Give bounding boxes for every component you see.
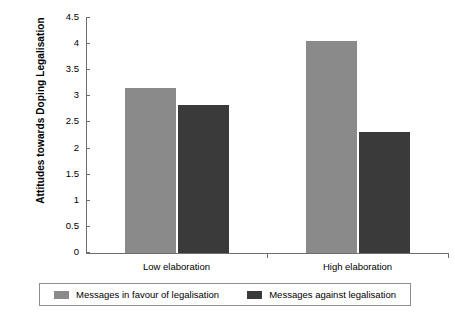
- x-axis-separator-tick: [267, 253, 268, 258]
- x-axis-category-label: High elaboration: [267, 261, 448, 272]
- y-axis-tick-label: 3.5: [66, 63, 79, 75]
- plot-area: 00.511.522.533.544.5: [86, 18, 448, 253]
- y-axis-tick-label: 0.5: [66, 220, 79, 232]
- y-axis-tick-label: 2: [74, 142, 79, 154]
- legend-swatch-icon: [54, 291, 69, 299]
- bar: [125, 88, 176, 253]
- x-axis-end-tick: [448, 253, 449, 258]
- y-axis-tick-mark: [86, 226, 90, 227]
- legend-entry: Messages against legalisation: [247, 289, 396, 300]
- legend-label: Messages against legalisation: [269, 289, 396, 300]
- chart-legend: Messages in favour of legalisation Messa…: [39, 283, 411, 306]
- legend-entry: Messages in favour of legalisation: [54, 289, 219, 300]
- x-axis-category-label: Low elaboration: [86, 261, 267, 272]
- bar: [359, 132, 410, 253]
- y-axis-tick-mark: [86, 148, 90, 149]
- bar-chart-figure: Attitudes towards Doping Legalisation 00…: [0, 0, 455, 319]
- legend-swatch-icon: [247, 291, 262, 299]
- y-axis-tick-label: 1: [74, 194, 79, 206]
- y-axis-tick-mark: [86, 200, 90, 201]
- y-axis-tick-label: 3: [74, 89, 79, 101]
- y-axis-tick-mark: [86, 17, 90, 18]
- y-axis-tick-label: 4.5: [66, 11, 79, 23]
- legend-label: Messages in favour of legalisation: [76, 289, 219, 300]
- y-axis-tick-mark: [86, 252, 90, 253]
- y-axis-tick-label: 4: [74, 37, 79, 49]
- y-axis-title: Attitudes towards Doping Legalisation: [35, 0, 46, 231]
- y-axis-tick-mark: [86, 174, 90, 175]
- y-axis-tick-label: 1.5: [66, 168, 79, 180]
- y-axis-tick-mark: [86, 121, 90, 122]
- y-axis-tick-mark: [86, 43, 90, 44]
- y-axis-tick-mark: [86, 69, 90, 70]
- y-axis-tick-label: 0: [74, 246, 79, 258]
- y-axis-tick-label: 2.5: [66, 115, 79, 127]
- y-axis-tick-mark: [86, 95, 90, 96]
- bar: [306, 41, 357, 253]
- bar: [178, 105, 229, 253]
